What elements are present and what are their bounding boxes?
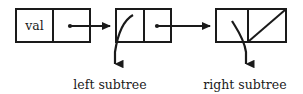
node-1: val [16, 9, 110, 42]
left-subtree-caption: left subtree [73, 77, 146, 92]
diagram-canvas: val left subtree right subtree [0, 0, 303, 94]
node-diagram: val left subtree right subtree [0, 0, 303, 94]
node-3-box [216, 9, 286, 42]
node-2 [115, 9, 210, 64]
node-3 [216, 9, 286, 64]
right-subtree-caption: right subtree [203, 77, 286, 92]
node-1-value-label: val [24, 18, 44, 33]
